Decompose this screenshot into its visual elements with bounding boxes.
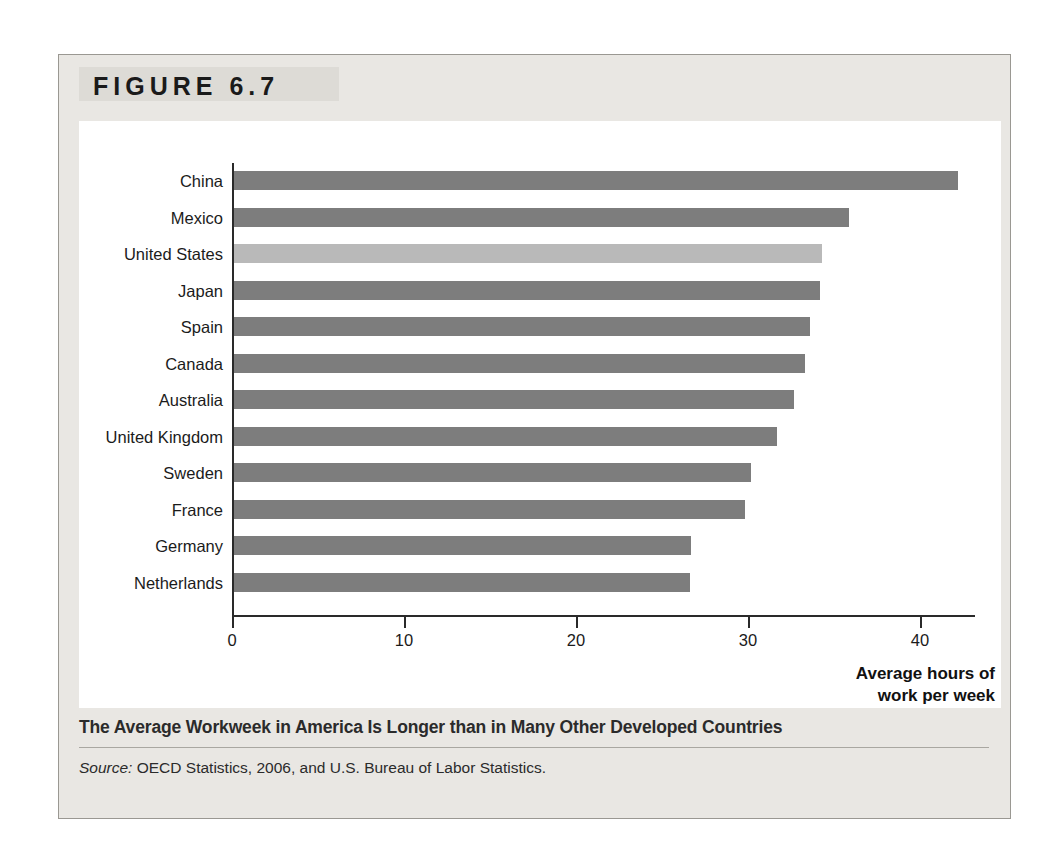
bar-australia: [232, 390, 794, 409]
y-axis-line: [232, 163, 234, 615]
bar-canada: [232, 354, 805, 373]
source-divider: [79, 747, 989, 748]
bar-mexico: [232, 208, 849, 227]
chart-panel: ChinaMexicoUnited StatesJapanSpainCanada…: [79, 121, 1001, 708]
bar-france: [232, 500, 745, 519]
x-tick-label-10: 10: [395, 631, 413, 650]
figure-number-text: FIGURE 6.7: [93, 72, 279, 101]
bar-sweden: [232, 463, 751, 482]
figure-page: FIGURE 6.7 ChinaMexicoUnited StatesJapan…: [0, 0, 1059, 850]
x-tick-label-30: 30: [739, 631, 757, 650]
bar-china: [232, 171, 958, 190]
bar-chart: ChinaMexicoUnited StatesJapanSpainCanada…: [79, 121, 1001, 708]
x-axis-line: [232, 615, 975, 617]
bars-layer: [79, 121, 1001, 708]
x-tick-40: [920, 615, 922, 628]
bar-united-kingdom: [232, 427, 777, 446]
bar-japan: [232, 281, 820, 300]
figure-caption: The Average Workweek in America Is Longe…: [79, 717, 994, 738]
bar-netherlands: [232, 573, 690, 592]
x-tick-label-40: 40: [911, 631, 929, 650]
x-tick-30: [748, 615, 750, 628]
x-axis-title-line-2: work per week: [856, 685, 995, 707]
bar-united-states: [232, 244, 822, 263]
x-tick-10: [404, 615, 406, 628]
bar-spain: [232, 317, 810, 336]
x-axis-title: Average hours of work per week: [856, 663, 995, 707]
figure-frame: FIGURE 6.7 ChinaMexicoUnited StatesJapan…: [58, 54, 1011, 819]
figure-source: Source: OECD Statistics, 2006, and U.S. …: [79, 759, 546, 777]
source-text: OECD Statistics, 2006, and U.S. Bureau o…: [132, 759, 546, 776]
x-tick-20: [576, 615, 578, 628]
x-tick-label-20: 20: [567, 631, 585, 650]
x-tick-label-0: 0: [227, 631, 236, 650]
x-axis-title-line-1: Average hours of: [856, 663, 995, 685]
x-tick-0: [232, 615, 234, 628]
bar-germany: [232, 536, 691, 555]
source-label: Source:: [79, 759, 132, 776]
figure-label-banner: FIGURE 6.7: [79, 67, 339, 101]
